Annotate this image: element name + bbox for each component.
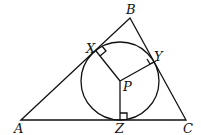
- geometry-diagram: B X Y P A Z C: [0, 0, 201, 135]
- label-x: X: [86, 42, 95, 55]
- label-a: A: [14, 122, 23, 135]
- label-b: B: [126, 3, 136, 16]
- label-y: Y: [154, 50, 163, 63]
- label-c: C: [183, 122, 193, 135]
- label-p: P: [123, 80, 132, 93]
- label-z: Z: [115, 122, 124, 135]
- diagram-canvas: [0, 0, 201, 135]
- triangle-abc: [21, 18, 186, 120]
